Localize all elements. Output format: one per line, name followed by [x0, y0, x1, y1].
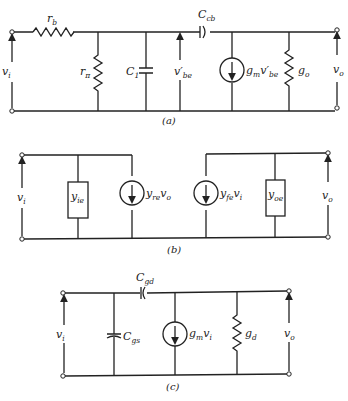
- capacitor-cgd: [141, 287, 145, 299]
- resistor-rb: [33, 28, 74, 36]
- label-gm-source: gmvi: [189, 327, 212, 342]
- input-terminal-bottom: [10, 109, 14, 113]
- label-ccb: Ccb: [198, 8, 216, 23]
- label-rb: rb: [47, 12, 57, 27]
- label-vi: vi: [17, 191, 26, 206]
- label-go: go: [298, 64, 310, 79]
- output-terminal-top: [287, 289, 291, 293]
- capacitor-c1: [139, 32, 153, 111]
- label-yre-source: yrevo: [145, 187, 171, 202]
- label-vo: vo: [322, 189, 333, 204]
- label-rpi: rπ: [80, 65, 91, 80]
- label-vi: vi: [2, 65, 11, 80]
- label-gd: gd: [245, 327, 257, 342]
- output-terminal-top: [326, 151, 330, 155]
- circuit-figure: vi rb rπ C1 v′be Ccb gmv′be go vo (a): [0, 0, 348, 401]
- label-cgs: Cgs: [123, 330, 140, 345]
- circuit-a: vi rb rπ C1 v′be Ccb gmv′be go vo (a): [2, 8, 344, 126]
- label-c1: C1: [126, 65, 139, 80]
- input-terminal-bottom: [20, 237, 24, 241]
- label-vbe: v′be: [174, 65, 193, 80]
- caption-c: (c): [166, 381, 180, 392]
- output-terminal-bottom: [326, 235, 330, 239]
- capacitor-cgs: [107, 293, 121, 376]
- caption-b: (b): [167, 244, 181, 255]
- label-gm-source: gmv′be: [246, 64, 279, 79]
- label-yfe-source: yfevi: [219, 187, 243, 202]
- label-vi: vi: [56, 328, 65, 343]
- label-vo: vo: [333, 63, 344, 78]
- resistor-gd: [233, 292, 241, 374]
- circuit-c: vi Cgd Cgs gmvi gd vo (c): [56, 271, 295, 392]
- label-yoe: yoe: [267, 188, 284, 203]
- label-yie: yie: [70, 190, 85, 205]
- circuit-b: vi yie yrevo yfevi yoe vo (b): [17, 151, 333, 255]
- input-terminal-top: [61, 291, 65, 295]
- output-terminal-top: [335, 28, 339, 32]
- resistor-rpi: [94, 32, 102, 111]
- top-wire: [65, 291, 287, 293]
- input-terminal-top: [20, 153, 24, 157]
- capacitor-ccb: [200, 26, 205, 38]
- label-vo: vo: [284, 327, 295, 342]
- label-cgd: Cgd: [136, 271, 154, 286]
- input-terminal-top: [10, 30, 14, 34]
- output-terminal-bottom: [287, 372, 291, 376]
- caption-a: (a): [162, 115, 176, 126]
- bottom-wire: [65, 374, 287, 376]
- input-terminal-bottom: [61, 374, 65, 378]
- bottom-wire: [24, 237, 326, 239]
- output-terminal-bottom: [335, 106, 339, 110]
- resistor-go: [285, 32, 293, 111]
